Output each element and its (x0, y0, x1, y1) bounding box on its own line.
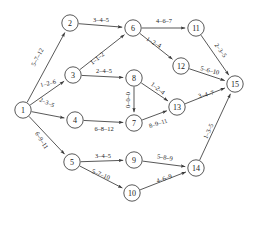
edge-label-4-to-7: 6–8–12 (94, 125, 113, 132)
edge-label-2-to-6: 3–4–5 (93, 16, 109, 23)
edge-9-to-14 (143, 161, 186, 167)
node-8[interactable]: 8 (126, 70, 142, 86)
edge-label-8-to-7: 0–0–0 (124, 92, 131, 108)
node-15[interactable]: 15 (227, 76, 243, 92)
node-label-9: 9 (132, 156, 136, 165)
node-label-7: 7 (132, 119, 136, 128)
node-5[interactable]: 5 (64, 154, 80, 170)
node-label-6: 6 (131, 24, 135, 33)
edge-label-10-to-14: 4–6–9 (155, 172, 172, 184)
edge-label-6-to-12: 1–2–4 (145, 35, 163, 49)
node-13[interactable]: 13 (169, 99, 185, 115)
node-label-8: 8 (132, 74, 136, 83)
node-1[interactable]: 1 (15, 102, 31, 118)
edge-label-3-to-6: 1–1–2 (89, 50, 106, 65)
network-diagram: 5–7–121–2–62–3–56–9–113–4–51–1–22–4–56–8… (0, 0, 258, 226)
node-label-11: 11 (192, 24, 200, 33)
edge-2-to-6 (79, 24, 123, 27)
node-3[interactable]: 3 (65, 67, 81, 83)
graph-canvas: 5–7–121–2–62–3–56–9–113–4–51–1–22–4–56–8… (0, 0, 258, 226)
node-9[interactable]: 9 (126, 152, 142, 168)
edge-label-3-to-8: 2–4–5 (96, 67, 112, 74)
node-label-1: 1 (21, 106, 25, 115)
node-7[interactable]: 7 (126, 115, 142, 131)
node-2[interactable]: 2 (62, 15, 78, 31)
edge-14-to-15 (200, 94, 231, 160)
node-label-5: 5 (70, 158, 74, 167)
node-12[interactable]: 12 (173, 58, 189, 74)
edge-1-to-4 (32, 112, 65, 118)
edge-label-13-to-15: 3–4–7 (197, 88, 215, 99)
edge-label-9-to-14: 5–8–9 (157, 152, 174, 161)
edge-label-5-to-9: 3–4–5 (95, 152, 111, 159)
edge-5-to-9 (81, 160, 124, 161)
node-label-3: 3 (71, 71, 75, 80)
edge-label-1-to-4: 2–3–5 (38, 96, 55, 109)
node-6[interactable]: 6 (125, 20, 141, 36)
edge-label-5-to-10: 5–7–10 (91, 167, 111, 181)
node-14[interactable]: 14 (188, 160, 204, 176)
edge-4-to-7 (84, 120, 124, 122)
edge-1-to-5 (29, 116, 65, 154)
edge-label-6-to-11: 4–6–7 (156, 17, 173, 24)
node-label-13: 13 (173, 103, 181, 112)
node-label-4: 4 (73, 116, 77, 125)
edge-label-12-to-15: 5–6–10 (200, 64, 220, 75)
node-label-14: 14 (192, 164, 200, 173)
node-10[interactable]: 10 (124, 185, 140, 201)
edge-3-to-8 (82, 75, 124, 77)
node-4[interactable]: 4 (67, 112, 83, 128)
edge-label-8-to-13: 1–2–4 (150, 80, 168, 96)
node-label-12: 12 (177, 62, 185, 71)
edge-label-14-to-15: 1–3–5 (202, 122, 215, 139)
edge-1-to-2 (27, 33, 65, 103)
node-label-10: 10 (128, 189, 136, 198)
node-label-2: 2 (68, 19, 72, 28)
node-label-15: 15 (231, 80, 239, 89)
node-11[interactable]: 11 (188, 20, 204, 36)
edge-label-7-to-13: 8–9–11 (148, 117, 168, 130)
edge-label-1-to-2: 5–7–12 (29, 47, 44, 67)
edge-label-1-to-3: 1–2–6 (39, 78, 56, 89)
edge-label-1-to-5: 6–9–11 (34, 130, 50, 150)
